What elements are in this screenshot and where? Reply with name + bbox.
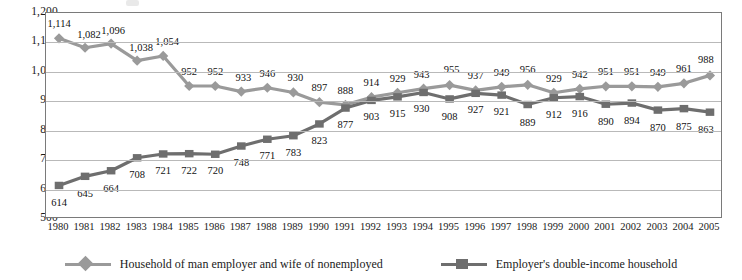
diamond-marker-icon <box>65 258 111 270</box>
data-point-label: 721 <box>155 164 171 175</box>
grid-line <box>46 42 721 43</box>
x-axis-tick-label: 2002 <box>620 221 641 233</box>
data-point-label: 877 <box>338 119 354 130</box>
x-axis-tick-label: 1986 <box>204 221 225 233</box>
data-point-label: 912 <box>546 108 562 119</box>
x-axis-tick-label: 1984 <box>152 221 173 233</box>
x-axis-tick-label: 1992 <box>360 221 381 233</box>
grid-line <box>46 131 721 132</box>
data-point-label: 916 <box>572 107 588 118</box>
data-point-marker <box>393 93 402 100</box>
square-marker-icon <box>441 258 487 270</box>
data-point-label: 955 <box>444 64 460 75</box>
data-point-label: 889 <box>520 116 536 127</box>
x-axis-tick-label: 1990 <box>308 221 329 233</box>
data-point-label: 888 <box>338 84 354 95</box>
data-point-label: 894 <box>624 115 640 126</box>
data-point-marker <box>497 82 507 92</box>
data-point-label: 942 <box>572 68 588 79</box>
data-point-marker <box>523 80 533 90</box>
data-point-marker <box>471 90 480 97</box>
x-axis: 1980198119821983198419851986198719881989… <box>45 221 722 235</box>
data-point-marker <box>80 43 90 53</box>
data-point-label: 771 <box>259 150 275 161</box>
data-point-label: 823 <box>312 134 328 145</box>
grid-line <box>46 101 721 102</box>
data-point-marker <box>289 132 298 139</box>
legend-item-0[interactable]: Household of man employer and wife of no… <box>65 257 383 271</box>
data-point-marker <box>55 182 64 189</box>
data-point-marker <box>575 93 584 100</box>
data-point-marker <box>159 150 168 157</box>
x-axis-tick-label: 1991 <box>334 221 355 233</box>
data-point-marker <box>627 81 637 91</box>
data-point-label: 890 <box>598 116 614 127</box>
data-point-label: 943 <box>414 68 430 79</box>
x-axis-tick-label: 2000 <box>568 221 589 233</box>
x-axis-tick-label: 1987 <box>230 221 251 233</box>
data-point-label: 921 <box>494 106 510 117</box>
data-point-marker <box>706 108 715 115</box>
data-point-label: 903 <box>364 111 380 122</box>
grid-line <box>46 72 721 73</box>
x-axis-tick-label: 1982 <box>100 221 121 233</box>
x-axis-tick-label: 2004 <box>672 221 693 233</box>
legend-item-1[interactable]: Employer's double-income household <box>441 257 677 271</box>
data-point-label: 720 <box>207 165 223 176</box>
x-axis-tick-label: 1983 <box>126 221 147 233</box>
x-axis-tick-label: 2005 <box>698 221 719 233</box>
data-point-label: 722 <box>181 164 197 175</box>
data-point-marker <box>237 142 246 149</box>
data-point-marker <box>263 136 272 143</box>
data-point-marker <box>601 81 611 91</box>
x-axis-tick-label: 1995 <box>438 221 459 233</box>
data-point-marker <box>341 104 350 111</box>
data-point-marker <box>210 81 220 91</box>
x-axis-tick-label: 1997 <box>490 221 511 233</box>
grid-line <box>46 190 721 191</box>
x-axis-tick-label: 2001 <box>594 221 615 233</box>
data-point-marker <box>680 105 689 112</box>
x-axis-tick-label: 1985 <box>178 221 199 233</box>
data-point-marker <box>679 78 689 88</box>
scan-artifact <box>126 0 139 6</box>
data-point-marker <box>185 150 194 157</box>
data-point-marker <box>211 151 220 158</box>
data-point-label: 927 <box>468 104 484 115</box>
data-point-marker <box>575 84 585 94</box>
legend-item-label: Employer's double-income household <box>496 257 677 271</box>
data-point-marker <box>419 89 428 96</box>
data-point-marker <box>262 83 272 93</box>
data-point-marker <box>497 91 506 98</box>
data-point-label: 875 <box>676 120 692 131</box>
data-point-label: 614 <box>51 197 67 208</box>
data-point-label: 1,114 <box>47 18 70 29</box>
data-point-label: 930 <box>414 103 430 114</box>
data-point-marker <box>288 87 298 97</box>
data-point-label: 708 <box>129 168 145 179</box>
data-point-marker <box>81 173 90 180</box>
x-axis-tick-label: 1996 <box>464 221 485 233</box>
data-point-label: 929 <box>546 72 562 83</box>
data-point-label: 664 <box>103 182 119 193</box>
data-point-label: 783 <box>285 146 301 157</box>
data-point-label: 748 <box>233 157 249 168</box>
data-point-label: 915 <box>390 107 406 118</box>
data-point-label: 988 <box>698 54 714 65</box>
legend-item-label: Household of man employer and wife of no… <box>120 257 383 271</box>
x-axis-tick-label: 1981 <box>74 221 95 233</box>
data-point-label: 930 <box>287 72 303 83</box>
x-axis-tick-label: 1988 <box>256 221 277 233</box>
data-point-marker <box>107 167 116 174</box>
chart-legend: Household of man employer and wife of no… <box>0 250 742 278</box>
data-point-label: 863 <box>698 124 714 135</box>
data-point-marker <box>654 106 663 113</box>
x-axis-tick-label: 1998 <box>516 221 537 233</box>
x-axis-tick-label: 2003 <box>646 221 667 233</box>
data-point-marker <box>236 86 246 96</box>
data-point-marker <box>444 80 454 90</box>
plot-area: 1,1141,0821,0961,0381,054952952933946930… <box>45 12 722 218</box>
data-point-label: 897 <box>312 82 328 93</box>
x-axis-tick-label: 1989 <box>282 221 303 233</box>
x-axis-tick-label: 1993 <box>386 221 407 233</box>
